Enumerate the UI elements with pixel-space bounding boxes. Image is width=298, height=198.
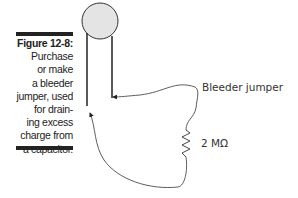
jumper-wire-top [186, 87, 198, 130]
jumper-wire-to-right-lead [113, 85, 195, 97]
resistor-icon [182, 130, 190, 157]
jumper-wire-bottom [90, 113, 187, 188]
bleeder-jumper-diagram: Bleeder jumper 2 MΩ [0, 0, 298, 198]
resistor-label: 2 MΩ [201, 137, 228, 149]
jumper-label: Bleeder jumper [202, 81, 284, 93]
